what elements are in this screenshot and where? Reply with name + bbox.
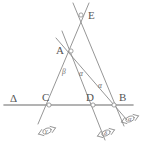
line-E-through-C bbox=[38, 3, 89, 124]
vertex-nodes bbox=[47, 13, 116, 107]
node-B bbox=[112, 103, 116, 107]
angle-label-beta-at-A: β bbox=[62, 68, 66, 76]
geometry-figure: E A C D B Δ β α α γ δ α bbox=[0, 0, 145, 150]
point-label-E: E bbox=[88, 10, 95, 21]
point-label-A: A bbox=[56, 45, 64, 56]
node-E bbox=[79, 13, 83, 17]
angle-label-alpha-at-A: α bbox=[79, 70, 83, 78]
point-label-D: D bbox=[86, 92, 94, 103]
direction-marker-label-gamma: γ bbox=[45, 128, 48, 135]
direction-marker-label-alpha: α bbox=[128, 116, 131, 123]
node-D bbox=[91, 103, 95, 107]
line-label-delta: Δ bbox=[10, 93, 17, 104]
point-label-C: C bbox=[42, 92, 49, 103]
angle-label-alpha-at-B: α bbox=[98, 82, 102, 90]
direction-marker-label-delta: δ bbox=[104, 130, 107, 137]
node-A bbox=[69, 49, 73, 53]
geometry-canvas bbox=[0, 0, 145, 150]
line-A-to-B-ext bbox=[56, 38, 127, 120]
node-C bbox=[47, 103, 51, 107]
point-label-B: B bbox=[119, 92, 126, 103]
